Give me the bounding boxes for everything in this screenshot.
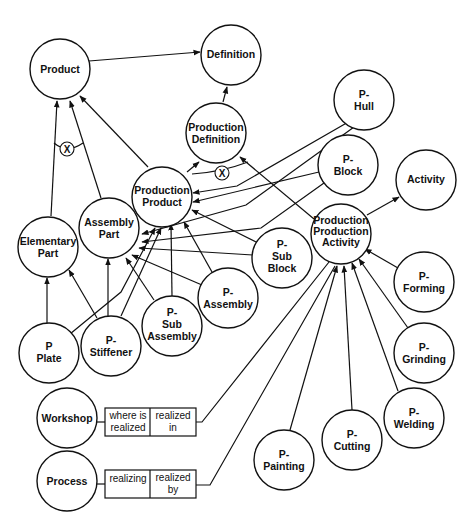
edge-psubblock-assembly	[139, 248, 253, 255]
svg-text:P-: P-	[347, 428, 358, 440]
edge-product-definition	[89, 52, 200, 61]
svg-text:Elementary: Elementary	[20, 235, 77, 247]
svg-text:Stiffener: Stiffener	[90, 346, 133, 358]
edge-assembly-product	[70, 101, 101, 198]
edge-pcutting-prodact	[344, 266, 352, 410]
node-p-hull[interactable]: P- Hull	[334, 70, 394, 130]
svg-text:Production: Production	[134, 184, 189, 196]
relation-process-right-2: by	[168, 484, 179, 495]
svg-text:Assembly: Assembly	[147, 330, 197, 342]
svg-text:P-: P-	[279, 448, 290, 460]
svg-text:P-: P-	[277, 238, 288, 250]
svg-text:P: P	[45, 340, 52, 352]
edge-psubassembly-prodprod	[171, 224, 172, 296]
svg-text:Product: Product	[40, 63, 80, 75]
svg-text:Part: Part	[38, 247, 59, 259]
svg-text:Sub: Sub	[162, 318, 182, 330]
node-p-welding[interactable]: P- Welding	[384, 388, 444, 448]
edge-psubassembly-assembly	[126, 258, 154, 300]
edge-elementary-product	[51, 101, 57, 216]
svg-text:P-: P-	[419, 341, 430, 353]
node-p-sub-block[interactable]: P- Sub Block	[252, 228, 312, 288]
edge-prodact-activity	[367, 197, 399, 215]
svg-text:Definition: Definition	[207, 48, 255, 60]
exclusive-marker-proddef: X	[215, 166, 229, 180]
edge-passembly-prodprod	[184, 222, 212, 272]
edge-pforming-prodact	[365, 249, 398, 268]
relation-workshop-left-2: realized	[110, 422, 145, 433]
node-workshop[interactable]: Workshop	[37, 388, 97, 448]
svg-text:Activity: Activity	[407, 173, 445, 185]
svg-text:Definition: Definition	[192, 133, 240, 145]
node-p-forming[interactable]: P- Forming	[394, 252, 454, 312]
svg-text:Grinding: Grinding	[402, 353, 446, 365]
relation-box-workshop[interactable]: where is realized realized in	[105, 408, 196, 436]
edge-pstiffener-elementary	[69, 270, 97, 318]
svg-text:Plate: Plate	[36, 352, 61, 364]
relation-workshop-right-2: in	[169, 422, 177, 433]
svg-text:Sub: Sub	[272, 250, 292, 262]
node-activity[interactable]: Activity	[396, 150, 456, 210]
edge-proddef-definition	[223, 87, 227, 102]
svg-text:Assembly: Assembly	[84, 216, 134, 228]
svg-text:Activity: Activity	[322, 236, 360, 248]
svg-text:Assembly: Assembly	[203, 298, 253, 310]
svg-text:P-: P-	[409, 406, 420, 418]
node-p-grinding[interactable]: P- Grinding	[394, 323, 454, 383]
svg-text:X: X	[64, 144, 71, 155]
exclusive-marker-product: X	[60, 142, 74, 156]
svg-text:Block: Block	[268, 262, 297, 274]
svg-text:P-: P-	[419, 270, 430, 282]
svg-text:Block: Block	[334, 165, 363, 177]
edge-ppainting-prodact	[290, 266, 337, 430]
svg-text:Workshop: Workshop	[41, 412, 92, 424]
ontology-diagram: X X Product Definition Production Defini…	[0, 0, 473, 532]
svg-text:Hull: Hull	[354, 100, 374, 112]
node-p-sub-assembly[interactable]: P- Sub Assembly	[142, 296, 202, 356]
svg-text:Product: Product	[142, 196, 182, 208]
svg-text:P-: P-	[223, 286, 234, 298]
svg-text:Painting: Painting	[263, 460, 304, 472]
svg-text:X: X	[219, 168, 226, 179]
relation-process-left: realizing	[109, 473, 146, 484]
svg-text:Process: Process	[47, 475, 88, 487]
node-p-painting[interactable]: P- Painting	[254, 430, 314, 490]
svg-text:P-: P-	[359, 88, 370, 100]
node-elementary-part[interactable]: Elementary Part	[18, 217, 78, 277]
node-definition[interactable]: Definition	[201, 25, 261, 85]
edge-psubblock-prodprod	[192, 210, 256, 242]
node-assembly-part[interactable]: Assembly Part	[79, 198, 139, 258]
node-p-stiffener[interactable]: P- Stiffener	[81, 316, 141, 376]
node-p-plate[interactable]: P Plate	[19, 323, 79, 383]
node-process[interactable]: Process	[37, 451, 97, 511]
relation-process-right: realized	[155, 472, 190, 483]
edge-prodprod-proddef	[187, 162, 199, 172]
svg-text:P-: P-	[167, 306, 178, 318]
svg-text:Cutting: Cutting	[334, 440, 371, 452]
node-production-product[interactable]: Production Product	[132, 167, 192, 227]
relation-workshop-left: where is	[108, 410, 146, 421]
node-p-block[interactable]: P- Block	[318, 135, 378, 195]
node-production-activity[interactable]: Production Production Activity	[311, 204, 371, 264]
node-p-cutting[interactable]: P- Cutting	[322, 410, 382, 470]
node-production-definition[interactable]: Production Definition	[186, 103, 246, 163]
node-product[interactable]: Product	[30, 39, 90, 99]
relation-box-process[interactable]: realizing realized by	[105, 470, 196, 498]
svg-text:Welding: Welding	[394, 418, 435, 430]
svg-text:P-: P-	[343, 153, 354, 165]
svg-text:Forming: Forming	[403, 282, 445, 294]
svg-text:Part: Part	[99, 228, 120, 240]
svg-text:Production: Production	[188, 121, 243, 133]
relation-workshop-right: realized	[155, 410, 190, 421]
edge-prodprod-product	[80, 96, 148, 167]
svg-text:P-: P-	[106, 334, 117, 346]
node-p-assembly[interactable]: P- Assembly	[198, 268, 258, 328]
